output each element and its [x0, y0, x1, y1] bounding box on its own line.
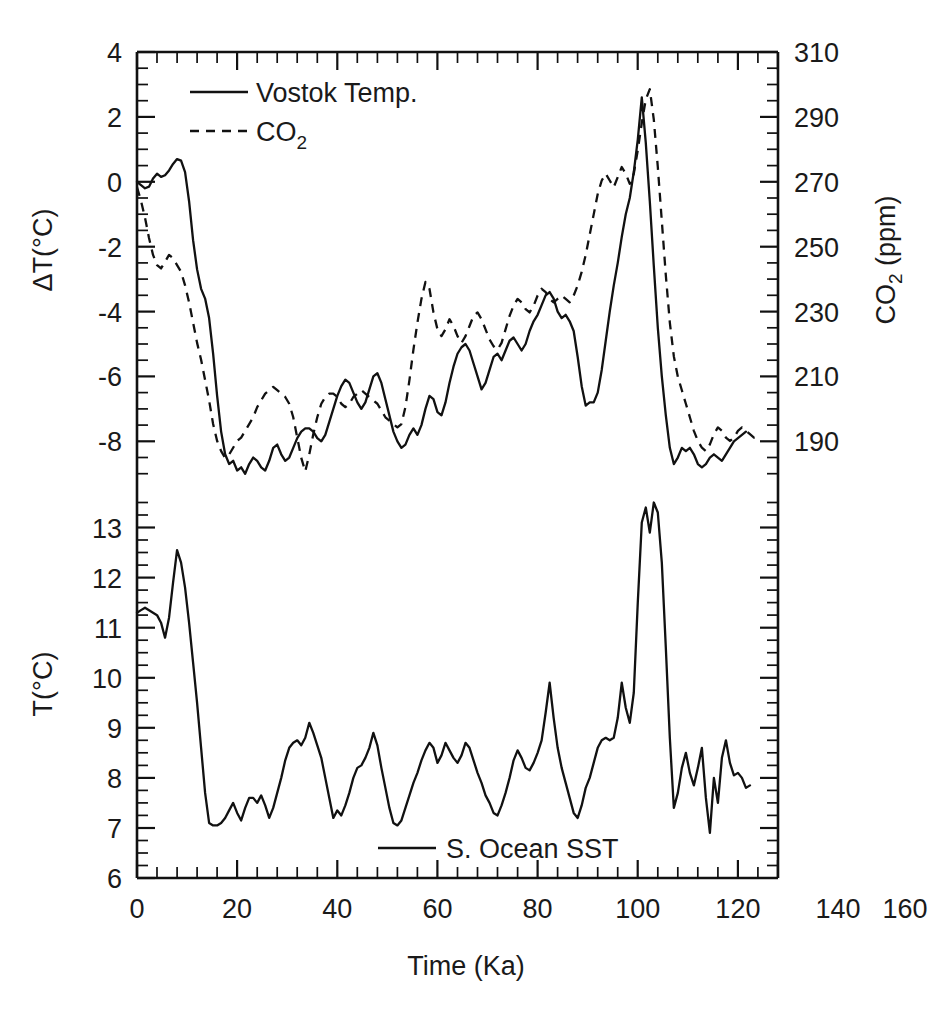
bottom-panel: 13 12 11 10 9 8 7 6 0 20 40 60 80 100 12…	[28, 490, 928, 924]
bottom-panel-y-tick-labels: 13 12 11 10 9 8 7 6	[92, 514, 122, 894]
top-ytick-label: 2	[107, 103, 122, 133]
bottom-panel-x-tick-labels: 0 20 40 60 80 100 120 140 160	[129, 894, 927, 924]
series-line-vostok-temp	[137, 97, 746, 473]
top-ytick-right-label: 290	[794, 103, 839, 133]
top-panel-left-tick-labels: 4 2 0 -2 -4 -6 -8	[98, 38, 122, 457]
top-panel-right-minor-ticks	[767, 68, 778, 474]
legend-co2-subscript: 2	[297, 132, 308, 153]
xtick-label: 120	[715, 894, 760, 924]
xtick-label: 60	[422, 894, 452, 924]
top-ytick-right-label: 250	[794, 233, 839, 263]
top-ytick-label: 4	[107, 38, 122, 68]
svg-text:CO2 (ppm): CO2 (ppm)	[871, 195, 906, 324]
legend-label-vostok-temp: Vostok Temp.	[256, 78, 418, 108]
bottom-ytick-label: 10	[92, 664, 122, 694]
xtick-label: 140	[815, 894, 860, 924]
bottom-ytick-label: 8	[107, 764, 122, 794]
top-panel-right-axis-title: CO2 (ppm)	[871, 195, 906, 324]
top-ytick-label: -2	[98, 233, 122, 263]
xtick-label: 40	[322, 894, 352, 924]
top-panel-right-tick-labels: 310 290 270 250 230 210 190	[794, 38, 839, 457]
top-panel-right-major-ticks	[760, 52, 778, 441]
top-ytick-label: -6	[98, 362, 122, 392]
top-ytick-label: -8	[98, 427, 122, 457]
co2-title-base: CO	[871, 284, 901, 325]
xtick-label: 80	[523, 894, 553, 924]
series-line-s-ocean-sst	[137, 503, 750, 833]
xtick-label: 0	[129, 894, 144, 924]
top-panel-left-major-ticks	[137, 52, 155, 441]
x-axis-title: Time (Ka)	[407, 951, 525, 981]
figure-container: 4 2 0 -2 -4 -6 -8 310 290 270 250 230 21…	[0, 0, 931, 1010]
bottom-panel-right-ticks	[760, 503, 778, 866]
top-ytick-right-label: 210	[794, 362, 839, 392]
bottom-ytick-label: 6	[107, 864, 122, 894]
legend-co2-base: CO	[256, 117, 297, 147]
top-ytick-label: -4	[98, 298, 122, 328]
top-ytick-label: 0	[107, 168, 122, 198]
co2-title-subscript: 2	[885, 273, 906, 284]
xtick-label: 100	[615, 894, 660, 924]
xtick-label: 160	[882, 894, 927, 924]
top-panel-y-axis-title: ΔT(°C)	[28, 209, 58, 292]
bottom-ytick-label: 9	[107, 714, 122, 744]
top-ytick-right-label: 190	[794, 427, 839, 457]
bottom-panel-legend: S. Ocean SST	[378, 834, 619, 864]
bottom-ytick-label: 11	[94, 614, 122, 644]
climate-proxy-figure: 4 2 0 -2 -4 -6 -8 310 290 270 250 230 21…	[0, 0, 931, 1010]
xtick-label: 20	[222, 894, 252, 924]
bottom-panel-y-axis-title: T(°C)	[28, 652, 58, 717]
top-panel: 4 2 0 -2 -4 -6 -8 310 290 270 250 230 21…	[28, 38, 906, 490]
bottom-ytick-label: 7	[107, 814, 122, 844]
top-ytick-right-label: 270	[794, 168, 839, 198]
bottom-panel-left-minor-ticks	[137, 503, 148, 866]
bottom-ytick-label: 13	[92, 514, 122, 544]
legend-label-s-ocean-sst: S. Ocean SST	[446, 834, 619, 864]
legend-label-co2: CO2	[256, 117, 307, 153]
top-panel-left-minor-ticks	[137, 68, 148, 474]
top-ytick-right-label: 230	[794, 298, 839, 328]
top-panel-top-ticks	[137, 52, 778, 70]
co2-title-unit: (ppm)	[871, 195, 901, 273]
top-panel-legend: Vostok Temp. CO2	[190, 78, 418, 153]
top-ytick-right-label: 310	[794, 38, 839, 68]
bottom-ytick-label: 12	[92, 564, 122, 594]
